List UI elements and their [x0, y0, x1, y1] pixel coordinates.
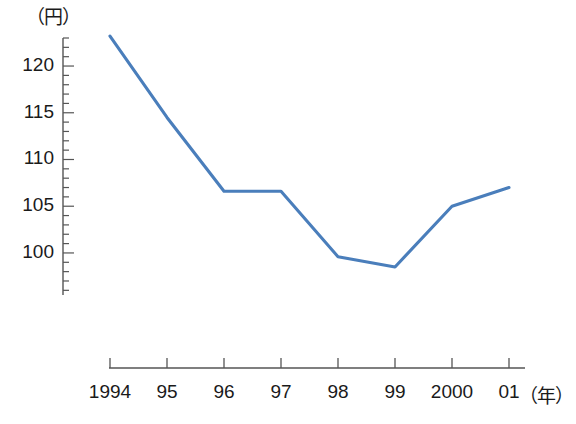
x-tick-label: 98	[327, 381, 348, 403]
x-tick-label: 96	[213, 381, 234, 403]
y-tick-label: 105	[8, 194, 54, 216]
chart-canvas	[0, 0, 576, 424]
x-tick-label: 99	[384, 381, 405, 403]
x-axis	[109, 358, 525, 368]
x-tick-label: 1994	[89, 381, 131, 403]
line-chart: （円） （年） 120115110105100 1994959697989920…	[0, 0, 576, 424]
y-tick-label: 120	[8, 54, 54, 76]
x-tick-label: 95	[156, 381, 177, 403]
y-tick-label: 110	[8, 147, 54, 169]
series-line	[110, 36, 509, 267]
y-axis-unit-label: （円）	[26, 2, 80, 29]
y-axis	[63, 38, 74, 295]
x-tick-label: 01	[498, 381, 519, 403]
y-tick-label: 100	[8, 241, 54, 263]
y-tick-label: 115	[8, 101, 54, 123]
x-tick-label: 97	[270, 381, 291, 403]
x-tick-label: 2000	[431, 381, 473, 403]
x-axis-unit-label: （年）	[519, 381, 573, 408]
data-series-line	[110, 36, 509, 267]
